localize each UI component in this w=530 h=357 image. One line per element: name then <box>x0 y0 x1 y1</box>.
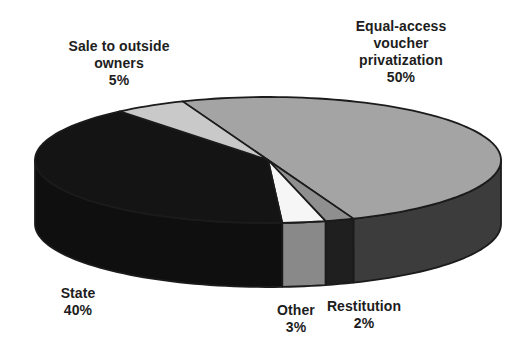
label-percent: 5% <box>68 72 169 89</box>
figure: Sale to outside owners 5% Equal-access v… <box>0 0 530 357</box>
label-line: Equal-access <box>356 18 447 35</box>
label-line: voucher <box>356 35 447 52</box>
label-line: State <box>61 285 96 302</box>
label-percent: 2% <box>327 315 401 332</box>
label-line: Restitution <box>327 298 401 315</box>
label-percent: 40% <box>61 302 96 319</box>
label-restitution: Restitution 2% <box>327 298 401 332</box>
slice-side-other <box>282 221 325 287</box>
slice-side-restitution <box>326 219 354 285</box>
label-line: privatization <box>356 52 447 69</box>
label-line: Other <box>277 302 315 319</box>
label-line: owners <box>68 55 169 72</box>
label-sale-to-outside-owners: Sale to outside owners 5% <box>68 38 169 89</box>
label-other: Other 3% <box>277 302 315 336</box>
label-state: State 40% <box>61 285 96 319</box>
label-equal-access-voucher-privatization: Equal-access voucher privatization 50% <box>356 18 447 86</box>
label-line: Sale to outside <box>68 38 169 55</box>
label-percent: 3% <box>277 319 315 336</box>
label-percent: 50% <box>356 69 447 86</box>
